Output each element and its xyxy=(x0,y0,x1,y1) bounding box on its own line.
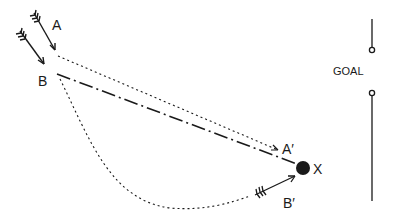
diagram-canvas: A B A′ B′ X GOAL xyxy=(0,0,395,219)
path-a-to-a-prime xyxy=(58,56,278,150)
path-b-to-b-prime xyxy=(60,79,250,209)
label-b-prime: B′ xyxy=(283,195,295,211)
path-b-to-x xyxy=(57,74,297,164)
label-a: A xyxy=(52,17,62,33)
ball-x xyxy=(296,161,310,175)
label-a-prime: A′ xyxy=(282,141,294,157)
label-b: B xyxy=(38,73,47,89)
arrow-b xyxy=(16,28,44,64)
label-goal: GOAL xyxy=(333,65,364,77)
goal-posts xyxy=(369,19,374,201)
label-x: X xyxy=(313,161,323,177)
